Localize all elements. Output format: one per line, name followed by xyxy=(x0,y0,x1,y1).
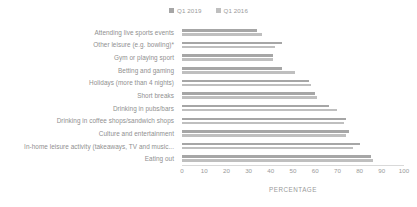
category-label-text: Attending live sports events xyxy=(94,29,174,36)
bar-q1-2019[interactable] xyxy=(182,67,282,70)
category-label: Culture and entertainment xyxy=(0,127,178,140)
bar-q1-2019[interactable] xyxy=(182,80,309,83)
bar-group xyxy=(182,26,404,39)
plot-area xyxy=(182,26,404,165)
x-tick-label: 60 xyxy=(312,167,319,174)
bar-q1-2019[interactable] xyxy=(182,42,282,45)
chart-legend: Q1 2019 Q1 2016 xyxy=(0,7,417,14)
legend-item-q1-2016[interactable]: Q1 2016 xyxy=(216,7,248,14)
legend-item-q1-2019[interactable]: Q1 2019 xyxy=(169,7,201,14)
bar-rows xyxy=(182,26,404,165)
bar-q1-2019[interactable] xyxy=(182,155,371,158)
bar-q1-2016[interactable] xyxy=(182,46,275,49)
x-tick-label: 0 xyxy=(180,167,183,174)
bar-group xyxy=(182,114,404,127)
category-label: Betting and gaming xyxy=(0,64,178,77)
x-tick-label: 80 xyxy=(356,167,363,174)
x-tick-label: 40 xyxy=(267,167,274,174)
category-label: Other leisure (e.g. bowling)* xyxy=(0,39,178,52)
bar-q1-2016[interactable] xyxy=(182,84,311,87)
bar-group xyxy=(182,152,404,165)
x-tick-label: 50 xyxy=(290,167,297,174)
bar-q1-2016[interactable] xyxy=(182,58,273,61)
x-tick-label: 30 xyxy=(245,167,252,174)
bar-q1-2019[interactable] xyxy=(182,105,329,108)
bar-group xyxy=(182,77,404,90)
bar-q1-2019[interactable] xyxy=(182,54,273,57)
bar-q1-2019[interactable] xyxy=(182,118,346,121)
bar-q1-2016[interactable] xyxy=(182,159,373,162)
x-axis-ticks: 0102030405060708090100 xyxy=(182,167,404,177)
category-label-text: Short breaks xyxy=(137,92,174,99)
bar-q1-2019[interactable] xyxy=(182,92,315,95)
bar-group xyxy=(182,39,404,52)
legend-swatch-icon xyxy=(169,8,174,13)
category-label-text: Holidays (more than 4 nights) xyxy=(89,79,174,86)
category-label-text: In-home leisure activity (takeaways, TV … xyxy=(24,143,174,150)
bar-q1-2019[interactable] xyxy=(182,29,257,32)
category-label: Eating out xyxy=(0,152,178,165)
x-tick-label: 70 xyxy=(334,167,341,174)
category-label-text: Culture and entertainment xyxy=(99,130,174,137)
bar-group xyxy=(182,140,404,153)
legend-swatch-icon xyxy=(216,8,221,13)
category-label: Short breaks xyxy=(0,89,178,102)
bar-group xyxy=(182,89,404,102)
bar-q1-2016[interactable] xyxy=(182,33,262,36)
x-axis-title: PERCENTAGE xyxy=(182,186,404,193)
bar-q1-2016[interactable] xyxy=(182,109,337,112)
x-tick-label: 10 xyxy=(201,167,208,174)
bar-group xyxy=(182,127,404,140)
legend-label: Q1 2019 xyxy=(177,7,201,14)
category-label: Drinking in pubs/bars xyxy=(0,102,178,115)
bar-q1-2019[interactable] xyxy=(182,130,349,133)
category-label: Gym or playing sport xyxy=(0,51,178,64)
category-label: Holidays (more than 4 nights) xyxy=(0,77,178,90)
bar-q1-2016[interactable] xyxy=(182,96,317,99)
bar-group xyxy=(182,51,404,64)
category-label-text: Drinking in coffee shops/sandwich shops xyxy=(57,117,174,124)
bar-q1-2016[interactable] xyxy=(182,122,344,125)
legend-label: Q1 2016 xyxy=(224,7,248,14)
bar-group xyxy=(182,64,404,77)
category-label: Drinking in coffee shops/sandwich shops xyxy=(0,114,178,127)
bar-q1-2016[interactable] xyxy=(182,71,295,74)
x-tick-label: 100 xyxy=(399,167,409,174)
bar-q1-2016[interactable] xyxy=(182,147,353,150)
category-label-text: Betting and gaming xyxy=(118,67,174,74)
category-label-text: Other leisure (e.g. bowling)* xyxy=(93,41,174,48)
category-label-text: Gym or playing sport xyxy=(114,54,174,61)
category-label: In-home leisure activity (takeaways, TV … xyxy=(0,140,178,153)
bar-q1-2019[interactable] xyxy=(182,143,360,146)
bar-chart: Q1 2019 Q1 2016 Attending live sports ev… xyxy=(0,0,417,207)
category-label: Attending live sports events xyxy=(0,26,178,39)
category-axis-labels: Attending live sports eventsOther leisur… xyxy=(0,26,178,165)
x-tick-label: 20 xyxy=(223,167,230,174)
category-label-text: Eating out xyxy=(145,155,174,162)
category-label-text: Drinking in pubs/bars xyxy=(113,105,174,112)
x-tick-label: 90 xyxy=(378,167,385,174)
bar-q1-2016[interactable] xyxy=(182,134,346,137)
x-axis-line xyxy=(182,165,404,166)
bar-group xyxy=(182,102,404,115)
